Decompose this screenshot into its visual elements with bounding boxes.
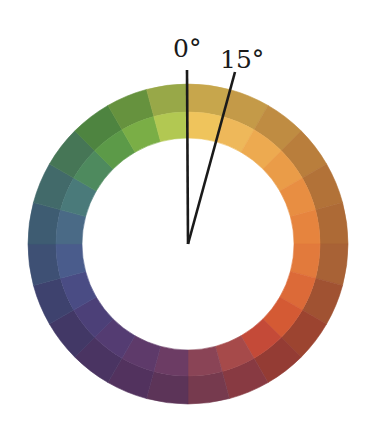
zero-degree-line — [187, 70, 188, 244]
hue-segment-outer — [147, 84, 188, 116]
fifteen-degree-label: 15° — [220, 45, 264, 74]
hue-segment-outer — [316, 203, 348, 244]
hue-segment-outer — [188, 372, 229, 404]
color-wheel-diagram: 0° 15° — [0, 0, 382, 447]
hue-segment-outer — [28, 244, 60, 285]
zero-degree-label: 0° — [173, 34, 201, 63]
